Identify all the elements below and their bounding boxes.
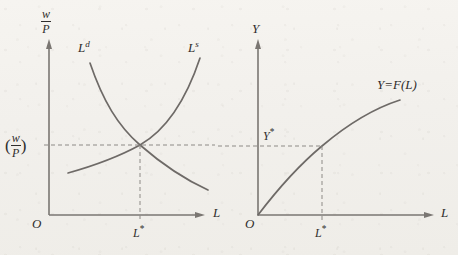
left-panel-axes xyxy=(46,39,205,218)
right-y-axis-label: Y xyxy=(252,22,259,35)
production-function-label: Y=F(L) xyxy=(377,78,417,91)
right-origin-label: O xyxy=(245,217,254,230)
labor-demand-curve-label: Ld xyxy=(78,40,90,54)
economics-figure: w P L O Ld Ls (wP) L* Y L O Y=F(L) Y* L* xyxy=(0,0,458,255)
left-y-axis-arrowhead xyxy=(46,39,52,49)
labor-supply-curve-label: Ls xyxy=(188,40,199,54)
figure-canvas xyxy=(0,0,458,255)
right-equilibrium-output-label: Y* xyxy=(263,128,274,142)
left-equilibrium-labor-label: L* xyxy=(133,225,144,239)
right-x-axis-arrowhead xyxy=(424,212,434,218)
labor-supply-curve xyxy=(68,58,200,173)
right-y-axis-arrowhead xyxy=(255,39,261,49)
right-x-axis-label: L xyxy=(441,206,448,219)
left-equilibrium-wage-label: (wP) xyxy=(5,132,26,159)
left-origin-label: O xyxy=(32,217,41,230)
left-y-axis-label: w P xyxy=(41,8,51,35)
production-function-curve xyxy=(258,100,400,215)
left-x-axis-arrowhead xyxy=(195,212,205,218)
right-equilibrium-labor-label: L* xyxy=(315,225,326,239)
left-x-axis-label: L xyxy=(213,206,220,219)
